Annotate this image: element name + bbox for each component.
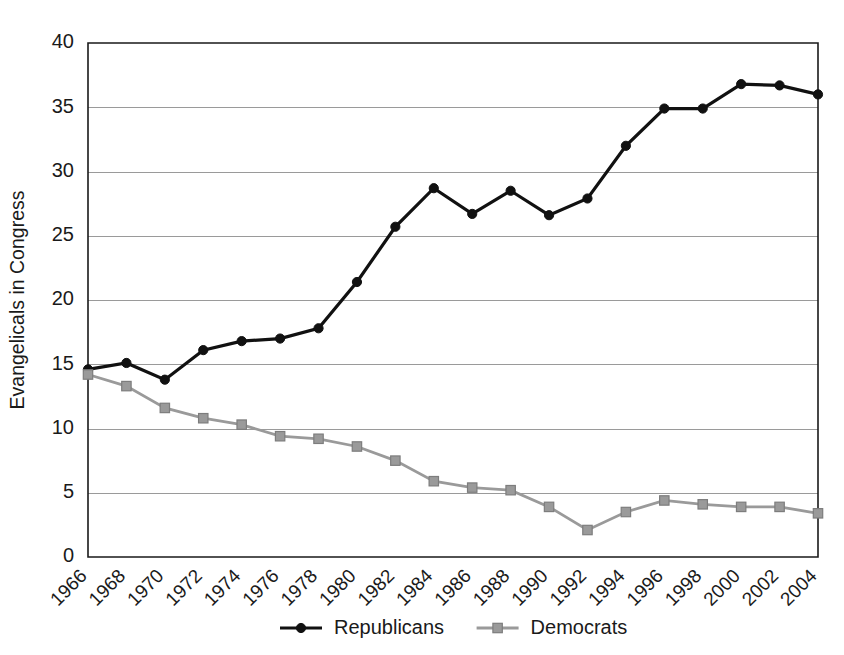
y-tick-label: 30 <box>52 159 74 181</box>
data-point-marker <box>468 209 477 218</box>
data-point-marker <box>583 525 592 534</box>
data-point-marker <box>621 507 630 516</box>
data-point-marker <box>237 420 246 429</box>
data-point-marker <box>506 485 515 494</box>
y-tick-label: 20 <box>52 287 74 309</box>
data-point-marker <box>199 346 208 355</box>
data-point-marker <box>698 104 707 113</box>
data-point-marker <box>736 502 745 511</box>
data-point-marker <box>391 456 400 465</box>
data-point-marker <box>506 186 515 195</box>
data-point-marker <box>275 432 284 441</box>
y-tick-label: 15 <box>52 352 74 374</box>
y-axis-title: Evangelicals in Congress <box>6 190 28 409</box>
data-point-marker <box>660 104 669 113</box>
data-point-marker <box>775 502 784 511</box>
legend-circle-marker <box>296 623 305 632</box>
data-point-marker <box>429 184 438 193</box>
data-point-marker <box>352 442 361 451</box>
data-point-marker <box>621 141 630 150</box>
data-point-marker <box>122 381 131 390</box>
legend-square-marker <box>493 623 502 632</box>
data-point-marker <box>160 375 169 384</box>
y-tick-label: 5 <box>63 480 74 502</box>
data-point-marker <box>199 414 208 423</box>
legend-label: Democrats <box>531 616 628 638</box>
y-tick-label: 0 <box>63 544 74 566</box>
data-point-marker <box>544 211 553 220</box>
data-point-marker <box>544 502 553 511</box>
data-point-marker <box>314 434 323 443</box>
data-point-marker <box>352 277 361 286</box>
data-point-marker <box>813 509 822 518</box>
y-tick-label: 10 <box>52 416 74 438</box>
data-point-marker <box>583 194 592 203</box>
data-point-marker <box>122 358 131 367</box>
data-point-marker <box>83 370 92 379</box>
data-point-marker <box>237 337 246 346</box>
data-point-marker <box>660 496 669 505</box>
y-tick-label: 40 <box>52 30 74 52</box>
data-point-marker <box>737 80 746 89</box>
y-tick-label: 35 <box>52 95 74 117</box>
line-chart: 0510152025303540 19661968197019721974197… <box>0 0 844 655</box>
data-point-marker <box>391 222 400 231</box>
data-point-marker <box>429 476 438 485</box>
data-point-marker <box>314 324 323 333</box>
data-point-marker <box>160 403 169 412</box>
data-point-marker <box>775 81 784 90</box>
data-point-marker <box>276 334 285 343</box>
y-tick-label: 25 <box>52 223 74 245</box>
chart-container: 0510152025303540 19661968197019721974197… <box>0 0 844 655</box>
legend-label: Republicans <box>334 616 444 638</box>
data-point-marker <box>813 90 822 99</box>
data-point-marker <box>698 500 707 509</box>
data-point-marker <box>468 483 477 492</box>
